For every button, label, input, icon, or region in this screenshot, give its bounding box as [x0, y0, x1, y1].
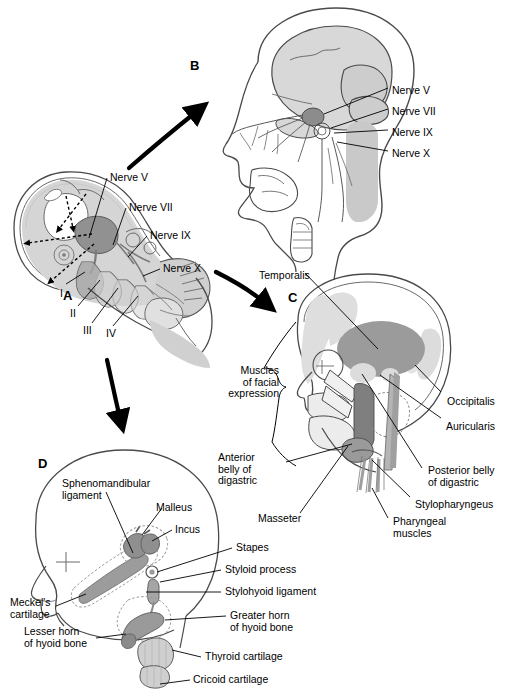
- panel-d-label-sphenomandibular-ligament: Sphenomandibular ligament: [62, 478, 150, 501]
- figure-canvas: A B C D Nerve V Nerve VII Nerve IX Nerve…: [0, 0, 509, 696]
- panel-d-label-incus: Incus: [175, 524, 200, 536]
- panel-a-label-nerve-x: Nerve X: [163, 263, 201, 275]
- panel-d-label-stylohyoid-ligament: Stylohyoid ligament: [225, 586, 316, 598]
- panel-d-label-stapes: Stapes: [236, 542, 269, 554]
- panel-c-illustration: [297, 274, 450, 493]
- panel-d-label-malleus: Malleus: [156, 502, 192, 514]
- panel-a-arch-iv: IV: [106, 328, 116, 340]
- panel-b-label-nerve-x: Nerve X: [392, 148, 430, 160]
- panel-d-label-cricoid-cartilage: Cricoid cartilage: [193, 674, 268, 686]
- panel-d-label-styloid-process: Styloid process: [225, 564, 296, 576]
- panel-c-label-masseter: Masseter: [258, 513, 301, 525]
- panel-a-label-nerve-v: Nerve V: [110, 172, 148, 184]
- panel-letter-c: C: [288, 290, 297, 305]
- panel-b-label-nerve-vii: Nerve VII: [392, 106, 436, 118]
- panel-c-label-auricularis: Auricularis: [446, 421, 495, 433]
- panel-a-arch-ii: II: [70, 308, 76, 320]
- panel-c-label-anterior-belly-of-digastric: Anterior belly of digastric: [218, 452, 257, 487]
- panel-c-label-posterior-belly-of-digastric: Posterior belly of digastric: [428, 465, 495, 488]
- panel-a-label-nerve-vii: Nerve VII: [129, 202, 173, 214]
- panel-a-label-nerve-ix: Nerve IX: [150, 230, 191, 242]
- panel-a-arch-iii: III: [83, 325, 92, 337]
- panel-b-label-nerve-v: Nerve V: [392, 85, 430, 97]
- panel-letter-a: A: [63, 288, 72, 303]
- panel-c-label-muscles-of-facial-expression: Muscles of facial expression: [207, 365, 279, 400]
- panel-d-label-meckels-cartilage: Meckel's cartilage: [10, 597, 51, 620]
- panel-a-arch-i: I: [60, 288, 63, 300]
- panel-c-label-pharyngeal-muscles: Pharyngeal muscles: [393, 516, 446, 539]
- arrow-a-to-d: [107, 360, 120, 418]
- panel-letter-b: B: [190, 58, 199, 73]
- arrow-a-to-c: [216, 272, 264, 302]
- panel-d-label-lesser-horn-of-hyoid-bone: Lesser horn of hyoid bone: [24, 626, 87, 649]
- panel-b-label-nerve-ix: Nerve IX: [392, 127, 433, 139]
- panel-b-illustration: [223, 8, 414, 280]
- panel-d-label-greater-horn-of-hyoid-bone: Greater horn of hyoid bone: [230, 610, 293, 633]
- panel-letter-d: D: [38, 456, 47, 471]
- panel-c-label-temporalis: Temporalis: [259, 270, 310, 282]
- panel-c-label-occipitalis: Occipitalis: [447, 396, 495, 408]
- panel-d-label-thyroid-cartilage: Thyroid cartilage: [205, 651, 283, 663]
- arrow-a-to-b: [129, 112, 196, 168]
- panel-c-label-stylopharyngeus: Stylopharyngeus: [415, 499, 493, 511]
